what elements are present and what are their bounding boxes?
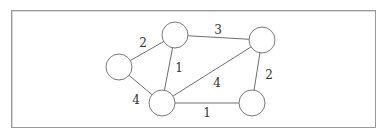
graph-node-D [149,90,175,116]
graph-node-B [162,22,188,48]
graph-canvas: 2314421 [0,0,388,137]
edge-weight-label: 1 [203,106,211,120]
graph-node-E [239,90,265,116]
edge-weight-label: 1 [175,61,183,75]
edge-weight-label: 4 [132,93,140,107]
graph-node-A [106,54,132,80]
edge-weight-label: 3 [214,23,222,37]
graph-node-C [249,27,275,53]
edge-weight-label: 2 [265,68,273,82]
edge-weight-label: 4 [213,76,221,90]
edge-weight-label: 2 [139,36,147,50]
